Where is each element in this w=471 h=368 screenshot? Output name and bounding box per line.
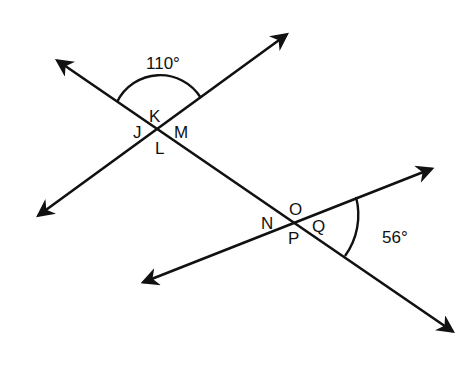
angle-arc-110 [117, 75, 201, 102]
line-through-o [144, 169, 431, 282]
point-label-j: J [133, 123, 142, 142]
angle-arc-56 [345, 197, 358, 256]
angle-label-56: 56° [382, 228, 408, 247]
point-label-n: N [261, 214, 273, 233]
point-label-l: L [155, 139, 164, 158]
angle-label-110: 110° [146, 54, 180, 73]
point-label-q: Q [312, 217, 325, 236]
point-label-p: P [288, 229, 299, 248]
point-label-m: M [174, 123, 188, 142]
parallel-lines-diagram: 110° 56° K J M L O N Q P [0, 0, 471, 368]
point-label-k: K [149, 107, 161, 126]
point-label-o: O [289, 200, 302, 219]
